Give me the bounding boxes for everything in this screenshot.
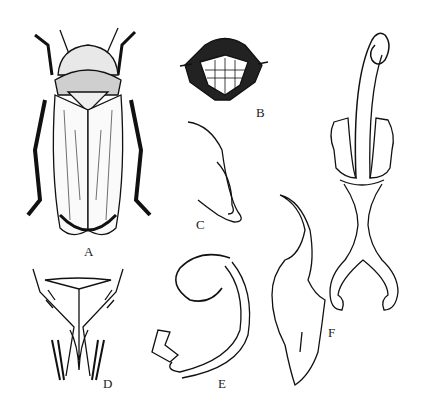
figure-canvas [0,0,440,409]
panel-label-d: D [103,376,112,392]
panel-label-c: C [196,217,205,233]
panel-label-e: E [218,376,226,392]
panel-c-style-illustration [188,122,241,222]
panel-e-curled-appendage-illustration [152,255,250,378]
panel-a-insect-illustration [28,28,150,235]
panel-b-face-illustration [180,39,268,101]
panel-label-b: B [256,105,265,121]
panel-d-pygofer-illustration [33,269,123,380]
panel-label-f: F [328,325,335,341]
panel-label-a: A [84,244,93,260]
